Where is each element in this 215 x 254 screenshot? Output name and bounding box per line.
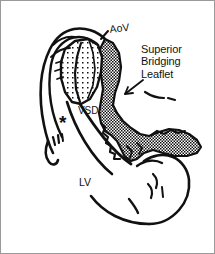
label-superior-bridging-leaflet: SuperiorBridgingLeaflet (141, 43, 182, 80)
label-left-ventricle: LV (79, 177, 91, 189)
lower-right-ventricular-lobe (91, 155, 189, 224)
arrow-superior-bridging-leaflet (125, 80, 175, 100)
figure-frame: AoV SuperiorBridgingLeaflet VSD LV * (0, 0, 215, 254)
label-sbl-line2: Bridging (141, 55, 181, 67)
label-ventricular-septal-defect: VSD (78, 105, 98, 116)
label-sbl-line3: Leaflet (141, 68, 173, 80)
label-aortic-valve: AoV (109, 22, 130, 36)
anatomical-drawing (1, 1, 215, 254)
asterisk-marker: * (59, 113, 66, 132)
label-sbl-line1: Superior (141, 43, 182, 55)
